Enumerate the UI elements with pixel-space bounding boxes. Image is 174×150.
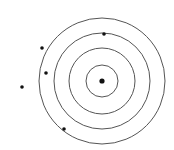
point-2 xyxy=(40,46,44,50)
point-3 xyxy=(44,71,48,75)
point-4 xyxy=(20,85,24,89)
target-diagram xyxy=(0,0,174,150)
point-5 xyxy=(62,127,66,131)
center-dot xyxy=(99,78,104,83)
point-1 xyxy=(102,32,106,36)
scatter-points xyxy=(20,32,106,131)
